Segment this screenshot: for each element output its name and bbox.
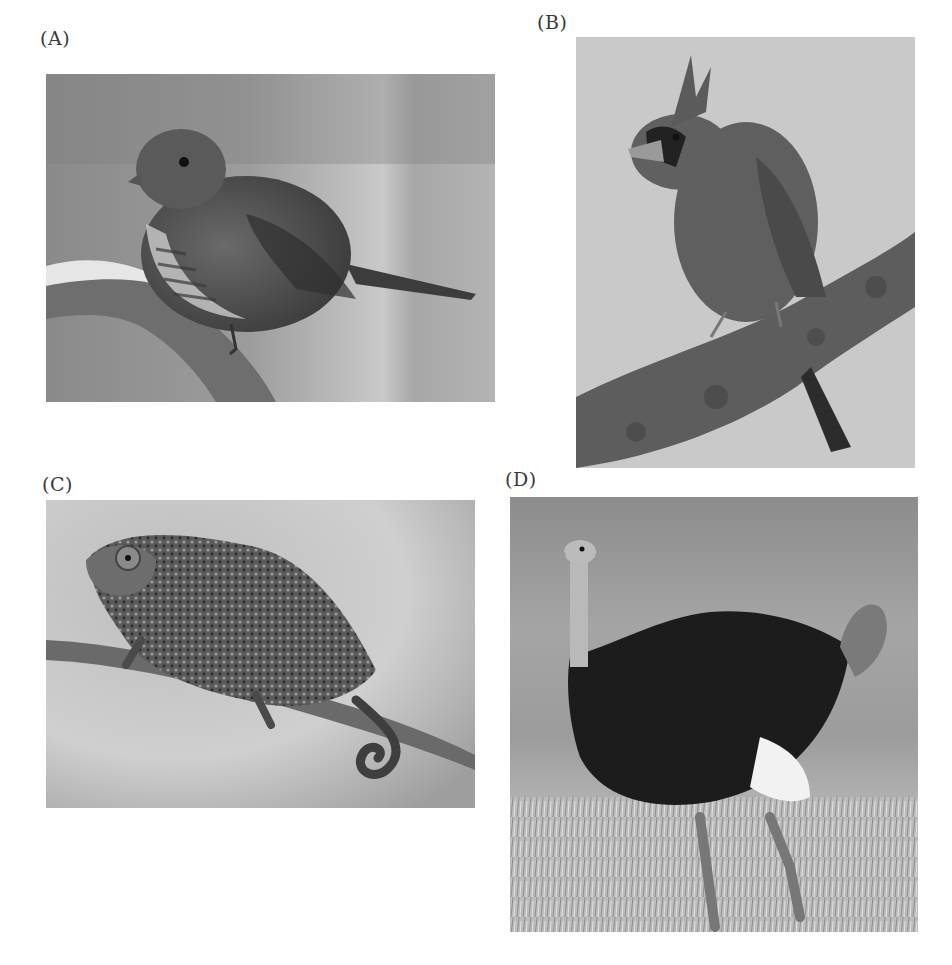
chameleon-illustration: [46, 500, 475, 808]
cardinal-illustration: [576, 37, 915, 468]
panel-label-b: (B): [537, 11, 567, 33]
ostrich-illustration: [510, 497, 918, 932]
photo-sparrow: [46, 74, 495, 402]
sparrow-illustration: [46, 74, 495, 402]
figure-caption-fragment: [520, 953, 940, 965]
photo-cardinal: [576, 37, 915, 468]
panel-label-a: (A): [40, 27, 70, 49]
panel-label-c: (C): [42, 473, 73, 495]
photo-ostrich: [510, 497, 918, 932]
panel-label-d: (D): [505, 468, 537, 490]
photo-chameleon: [46, 500, 475, 808]
